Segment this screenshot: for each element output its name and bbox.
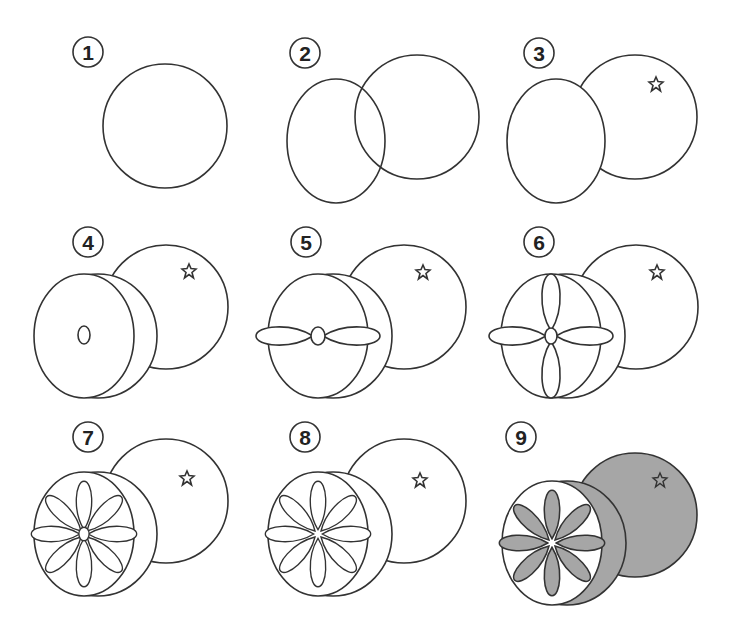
svg-text:5: 5 — [300, 231, 312, 254]
svg-text:6: 6 — [533, 231, 545, 254]
step-number: 1 — [82, 41, 94, 64]
step-7: 7 — [31, 422, 228, 596]
step-4: 4 — [34, 227, 228, 398]
orange-circle — [355, 55, 479, 179]
svg-text:4: 4 — [82, 231, 94, 254]
slice-oval — [507, 79, 605, 203]
center-pith — [78, 326, 90, 344]
drawing-guide: 1 2 3 4 5 — [0, 0, 734, 641]
svg-text:8: 8 — [299, 426, 311, 449]
svg-text:3: 3 — [533, 42, 545, 65]
step-9: 9 — [499, 422, 697, 605]
svg-text:9: 9 — [515, 426, 527, 449]
step-8: 8 — [265, 422, 466, 596]
step-5: 5 — [256, 227, 466, 398]
orange-circle — [103, 64, 227, 188]
step-6: 6 — [489, 227, 698, 398]
svg-text:7: 7 — [82, 426, 94, 449]
step-2: 2 — [287, 38, 479, 203]
svg-text:2: 2 — [299, 42, 311, 65]
step-1: 1 — [73, 37, 227, 188]
slice-oval — [287, 79, 385, 203]
step-3: 3 — [507, 38, 697, 203]
